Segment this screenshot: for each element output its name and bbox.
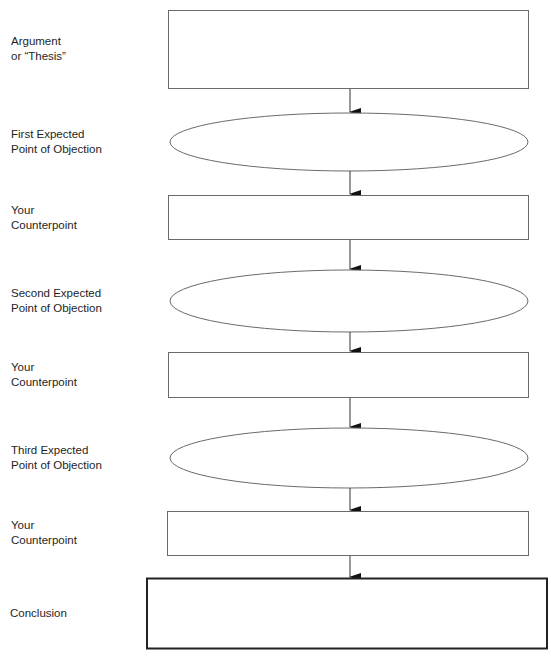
counterpoint-3-box[interactable] [168,512,529,556]
conclusion-box[interactable] [147,579,547,649]
thesis-box[interactable] [169,11,529,89]
flowchart [0,0,551,660]
counterpoint-1-box[interactable] [169,196,529,240]
objection-3-ellipse[interactable] [170,428,528,488]
counterpoint-2-box[interactable] [169,353,529,398]
objection-1-ellipse[interactable] [170,113,528,171]
objection-2-ellipse[interactable] [170,270,528,332]
